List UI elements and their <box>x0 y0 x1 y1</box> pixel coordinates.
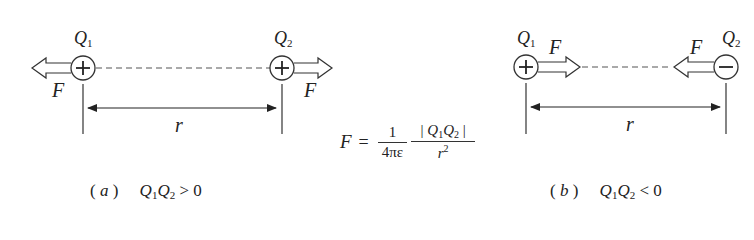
formula-lhs: F <box>340 131 352 153</box>
fraction-constant-denominator: 4πε <box>378 142 407 161</box>
charge-q1-positive-a <box>71 56 95 80</box>
coulomb-formula: F = 1 4πε | Q1Q2 | r2 <box>340 122 477 162</box>
force-arrow-q2-b <box>674 57 714 77</box>
label-force-q1-b: F <box>549 36 561 59</box>
force-arrow-q1-b <box>538 57 580 77</box>
fraction-constant-numerator: 1 <box>385 124 401 142</box>
label-force-left-a: F <box>52 79 64 102</box>
label-q2-a: Q2 <box>274 28 293 49</box>
caption-a: ( a ) Q1Q2 > 0 <box>90 181 202 201</box>
label-force-right-a: F <box>304 79 316 102</box>
formula-equals: = <box>359 132 369 153</box>
charge-q2-negative-b <box>714 55 738 79</box>
charge-q1-positive-b <box>514 55 538 79</box>
caption-b: ( b ) Q1Q2 < 0 <box>550 181 662 201</box>
label-q2-b: Q2 <box>722 28 741 49</box>
label-force-q2-b: F <box>690 36 702 59</box>
fraction-charges-numerator: | Q1Q2 | <box>417 122 470 141</box>
label-q1-a: Q1 <box>74 28 93 49</box>
label-q1-b: Q1 <box>517 28 536 49</box>
force-arrow-left-a <box>32 58 71 78</box>
fraction-charges-denominator: r2 <box>411 141 475 162</box>
charge-q2-positive-a <box>270 56 294 80</box>
label-distance-a: r <box>175 114 183 137</box>
fraction-constant: 1 4πε <box>378 124 407 161</box>
force-arrow-right-a <box>294 58 332 78</box>
fraction-charges: | Q1Q2 | r2 <box>411 122 475 162</box>
label-distance-b: r <box>626 113 634 136</box>
